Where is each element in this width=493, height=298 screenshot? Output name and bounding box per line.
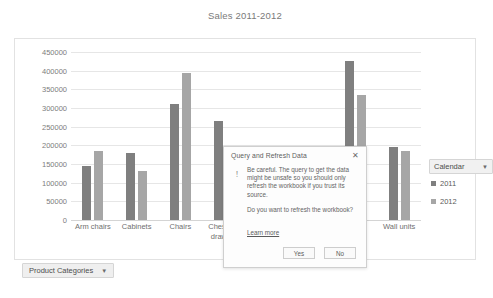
- chart-title: Sales 2011-2012: [0, 10, 490, 21]
- slicer-calendar-label: Calendar: [434, 162, 464, 171]
- bar-group: [159, 52, 203, 220]
- y-axis-tick: 250000: [42, 122, 67, 131]
- slicer-calendar[interactable]: Calendar ▼: [429, 159, 493, 174]
- dialog-titlebar: Query and Refresh Data ✕: [224, 147, 366, 162]
- bar: [138, 171, 147, 220]
- legend-label: 2011: [440, 179, 456, 188]
- y-axis-tick: 350000: [42, 85, 67, 94]
- query-and-refresh-data-dialog: Query and Refresh Data ✕ ! Be careful. T…: [223, 146, 367, 268]
- y-axis-tick: 150000: [42, 160, 67, 169]
- bar: [389, 147, 398, 220]
- legend-swatch-icon: [431, 181, 436, 186]
- learn-more-link[interactable]: Learn more: [247, 229, 279, 236]
- dialog-title: Query and Refresh Data: [231, 152, 307, 159]
- bar: [126, 153, 135, 220]
- y-axis-tick: 200000: [42, 141, 67, 150]
- dialog-message-question: Do you want to refresh the workbook?: [247, 206, 358, 214]
- y-axis-tick-labels: 4500004000003500003000002500002000001500…: [19, 52, 67, 220]
- slicer-product-categories-label: Product Categories: [29, 266, 93, 275]
- bar: [214, 121, 223, 220]
- slicer-product-categories[interactable]: Product Categories ▼: [22, 263, 114, 278]
- dialog-message-primary: Be careful. The query to get the data mi…: [247, 166, 358, 199]
- bar-group: [377, 52, 421, 220]
- y-axis-tick: 400000: [42, 66, 67, 75]
- bar: [82, 166, 91, 220]
- chevron-down-icon: ▼: [482, 164, 488, 170]
- close-icon[interactable]: ✕: [351, 152, 360, 160]
- chart-plot-frame: 4500004000003500003000002500002000001500…: [14, 38, 476, 260]
- bar: [401, 151, 410, 220]
- no-button[interactable]: No: [324, 247, 356, 259]
- legend-item[interactable]: 2012: [431, 197, 493, 206]
- x-axis-tick: Arm chairs: [71, 222, 115, 232]
- chevron-down-icon: ▼: [101, 268, 107, 274]
- x-axis-tick: Chairs: [159, 222, 203, 232]
- bar-group: [115, 52, 159, 220]
- y-axis-tick: 300000: [42, 104, 67, 113]
- warning-icon: !: [231, 166, 243, 239]
- legend-swatch-icon: [431, 199, 436, 204]
- bar: [170, 104, 179, 220]
- yes-button[interactable]: Yes: [283, 247, 315, 259]
- bar: [182, 73, 191, 220]
- legend-label: 2012: [440, 197, 457, 206]
- dialog-body: ! Be careful. The query to get the data …: [224, 162, 366, 241]
- dialog-button-row: Yes No: [224, 241, 366, 267]
- bar: [94, 151, 103, 220]
- warning-icon-glyph: !: [236, 170, 239, 179]
- x-axis-tick: Wall units: [377, 222, 421, 232]
- x-axis-tick: Cabinets: [115, 222, 159, 232]
- y-axis-tick: 50000: [46, 197, 67, 206]
- y-axis-tick: 100000: [42, 178, 67, 187]
- y-axis-tick: 450000: [42, 48, 67, 57]
- legend-item[interactable]: 2011: [431, 179, 493, 188]
- dialog-text-column: Be careful. The query to get the data mi…: [243, 166, 358, 239]
- bar-group: [71, 52, 115, 220]
- chart-legend: 20112012: [431, 179, 493, 215]
- y-axis-tick: 0: [63, 216, 67, 225]
